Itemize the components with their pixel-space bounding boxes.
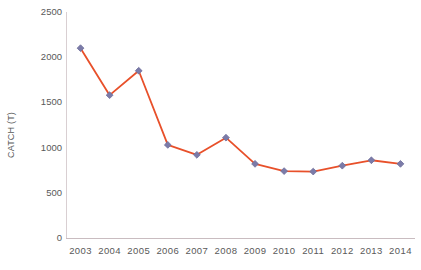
data-point-marker [281,168,288,175]
x-tick-label: 2009 [244,245,267,256]
data-point-marker [368,157,375,164]
y-tick-label: 1500 [22,97,62,107]
plot-area [66,12,415,238]
y-tick-label: 500 [22,188,62,198]
y-tick-label: 2500 [22,7,62,17]
x-tick-label: 2014 [389,245,412,256]
y-tick-label: 0 [22,233,62,243]
series-markers [77,45,404,175]
x-tick-label: 2011 [302,245,324,256]
x-tick-label: 2010 [273,245,296,256]
y-axis-tick-labels: 2500 2000 1500 1000 500 0 [22,0,62,270]
x-tick-label: 2013 [360,245,383,256]
x-tick-label: 2003 [69,245,92,256]
data-point-marker [164,141,171,148]
x-axis-line [66,238,415,239]
x-tick-label: 2006 [156,245,179,256]
y-axis-title: CATCH (T) [0,0,22,270]
series-line [81,48,401,171]
x-axis-tick-labels: 2003200420052006200720082009201020112012… [66,245,415,263]
data-point-marker [339,162,346,169]
chart-container: CATCH (T) 2500 2000 1500 1000 500 0 2003… [0,0,421,270]
x-tick-label: 2004 [98,245,121,256]
data-point-marker [397,160,404,167]
y-tick-label: 2000 [22,52,62,62]
data-point-marker [310,168,317,175]
y-tick-label: 1000 [22,143,62,153]
x-tick-label: 2005 [127,245,150,256]
x-tick-label: 2007 [186,245,209,256]
x-tick-label: 2008 [215,245,238,256]
series-line-chart [66,12,415,238]
x-tick-label: 2012 [331,245,354,256]
